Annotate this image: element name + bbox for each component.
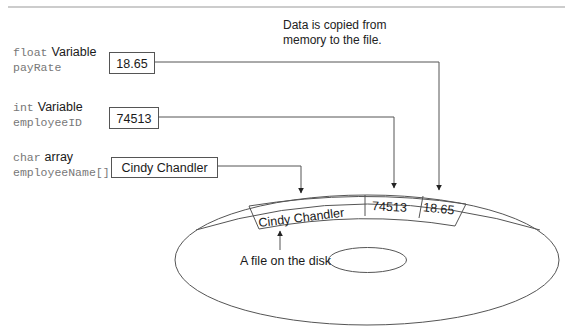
variable-employeeid: intVariable employeeID 74513 <box>13 100 159 129</box>
file-write-diagram: Data is copied from memory to the file. … <box>0 0 570 334</box>
svg-text:floatVariable: floatVariable <box>13 45 96 59</box>
disk-hub <box>329 248 407 273</box>
variable-employeename: chararray employeeName[] Cindy Chandler <box>13 150 218 179</box>
kind-label: Variable <box>52 45 97 59</box>
file-field-id: 74513 <box>372 199 407 215</box>
variable-name: employeeID <box>13 116 82 129</box>
svg-text:intVariable: intVariable <box>13 100 83 114</box>
file-label: A file on the disk <box>240 254 332 268</box>
caption-line-1: Data is copied from <box>283 18 386 32</box>
value-text: Cindy Chandler <box>121 161 207 175</box>
type-label: float <box>13 46 48 59</box>
value-text: 74513 <box>117 112 152 126</box>
variable-name: payRate <box>13 61 61 74</box>
type-label: int <box>13 101 34 114</box>
caption-line-2: memory to the file. <box>283 33 382 47</box>
type-label: char <box>13 151 41 164</box>
variable-name: employeeName[] <box>13 166 110 179</box>
svg-text:chararray: chararray <box>13 150 74 164</box>
kind-label: Variable <box>38 100 83 114</box>
variable-payrate: floatVariable payRate 18.65 <box>13 45 155 74</box>
value-text: 18.65 <box>116 57 147 71</box>
connector-employeename <box>217 166 301 193</box>
kind-label: array <box>45 150 74 164</box>
